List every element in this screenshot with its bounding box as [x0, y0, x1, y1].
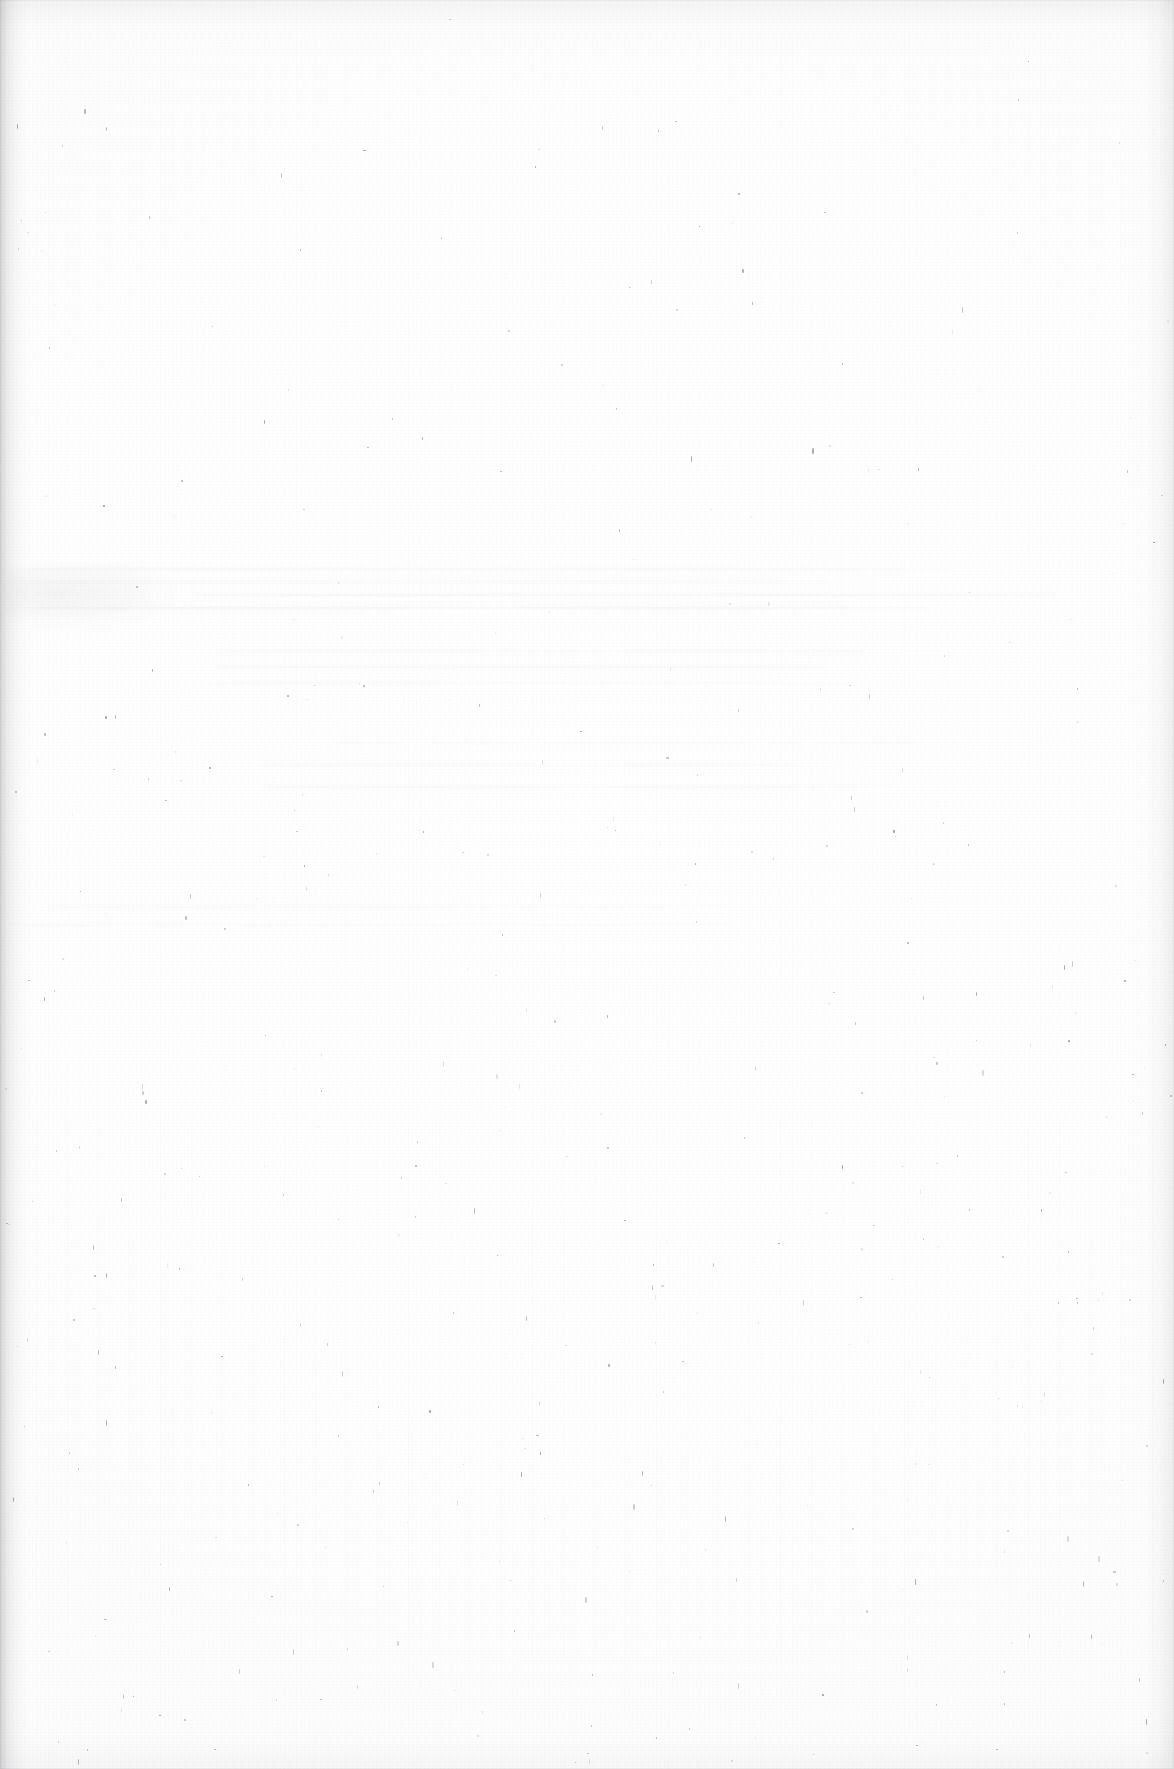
binding-gutter-shadow-left — [0, 0, 34, 1769]
page-edge-shadow-right — [1128, 0, 1174, 1769]
page-edge-shadow-top — [0, 0, 1174, 56]
page-edge-shadow-bottom — [0, 1705, 1174, 1769]
scanned-page — [0, 0, 1174, 1769]
scanner-streak-texture — [0, 0, 1174, 1769]
